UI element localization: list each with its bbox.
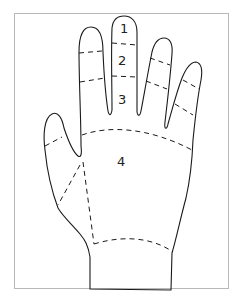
zone-label-3: 3 bbox=[118, 93, 126, 106]
ring-finger-joint-1 bbox=[150, 58, 170, 65]
index-finger-joint-1 bbox=[79, 51, 102, 53]
zone-label-4: 4 bbox=[117, 155, 125, 168]
hand-outline bbox=[0, 0, 242, 306]
middle-finger-joint-2 bbox=[112, 76, 137, 77]
index-finger-joint-2 bbox=[80, 78, 105, 82]
wrist-boundary bbox=[94, 239, 173, 252]
pinky-joint-2 bbox=[175, 104, 193, 115]
zone-label-2: 2 bbox=[118, 54, 126, 67]
thumb-base-line bbox=[58, 165, 80, 205]
palm-upper-boundary bbox=[82, 130, 192, 150]
pinky-joint-1 bbox=[183, 80, 199, 89]
thumb-joint bbox=[45, 137, 62, 146]
palm-thumb-divider bbox=[83, 162, 94, 244]
middle-finger-joint-1 bbox=[112, 43, 137, 45]
ring-finger-joint-2 bbox=[146, 81, 167, 89]
zone-label-1: 1 bbox=[120, 22, 128, 35]
